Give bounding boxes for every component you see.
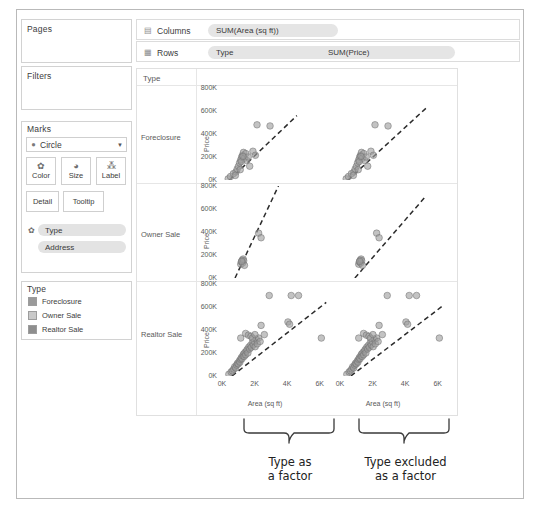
scatter-svg <box>340 284 454 376</box>
scatter-point[interactable] <box>350 172 357 179</box>
shelf-pill-area[interactable]: SUM(Area (sq ft)) <box>208 24 338 37</box>
scatter-panel-owner-sale-by-type[interactable] <box>222 186 336 278</box>
chevron-down-icon[interactable]: ▼ <box>114 142 126 148</box>
scatter-point[interactable] <box>318 335 325 342</box>
x-tick-label: 0K <box>213 380 231 387</box>
size-icon: ◕ <box>73 162 78 171</box>
shelf-pill-price[interactable]: SUM(Price) <box>320 46 455 59</box>
pages-card-title: Pages <box>27 24 52 34</box>
shelf-pill-type-label: Type <box>216 48 233 57</box>
scatter-point[interactable] <box>254 122 261 129</box>
legend-item-label: Owner Sale <box>42 311 81 320</box>
scatter-point[interactable] <box>356 258 363 265</box>
scatter-point[interactable] <box>370 152 377 159</box>
shelf-pill-type[interactable]: Type <box>208 46 333 59</box>
filters-card-title: Filters <box>27 71 52 81</box>
legend-swatch <box>28 297 37 306</box>
scatter-point[interactable] <box>376 322 383 329</box>
label-shelf-button[interactable]: ⁂ Label <box>96 157 126 185</box>
scatter-point[interactable] <box>288 292 295 299</box>
scatter-point[interactable] <box>358 153 365 160</box>
scatter-svg <box>340 88 454 180</box>
x-tick-label: 2K <box>364 380 382 387</box>
y-tick-label: 400K <box>191 228 217 235</box>
scatter-point[interactable] <box>364 163 371 170</box>
y-tick-label: 600K <box>191 107 217 114</box>
scatter-point[interactable] <box>404 321 411 328</box>
columns-icon: ▤ <box>144 26 151 35</box>
scatter-point[interactable] <box>261 331 268 338</box>
rows-shelf-label: Rows <box>157 48 178 58</box>
scatter-point[interactable] <box>436 335 443 342</box>
scatter-panel-realtor-sale-by-type[interactable] <box>222 284 336 376</box>
scatter-point[interactable] <box>355 166 362 173</box>
tooltip-shelf-button[interactable]: Tooltip <box>63 191 104 212</box>
trend-line <box>232 302 326 376</box>
size-shelf-button[interactable]: ◕ Size <box>61 157 91 185</box>
detail-shelf-button[interactable]: Detail <box>26 191 59 212</box>
label-shelf-label: Label <box>102 172 120 180</box>
scatter-point[interactable] <box>258 234 265 241</box>
detail-shelf-label: Detail <box>33 198 52 206</box>
scatter-point[interactable] <box>372 122 379 129</box>
scatter-point[interactable] <box>375 338 382 345</box>
size-shelf-label: Size <box>69 172 84 180</box>
y-tick-label: 200K <box>191 251 217 258</box>
marks-pill-type[interactable]: Type <box>38 224 126 236</box>
rows-shelf[interactable]: ▦ Rows Type SUM(Price) <box>136 41 520 62</box>
legend-item-foreclosure[interactable]: Foreclosure <box>28 297 82 306</box>
scatter-svg <box>222 88 336 180</box>
x-axis-title: Area (sq ft) <box>338 400 428 407</box>
x-tick-label: 2K <box>246 380 264 387</box>
scatter-point[interactable] <box>376 234 383 241</box>
scatter-panel-foreclosure-excluded[interactable] <box>340 88 454 180</box>
columns-shelf[interactable]: ▤ Columns SUM(Area (sq ft)) <box>136 19 520 40</box>
y-tick-label: 800K <box>191 84 217 91</box>
legend-swatch <box>28 325 37 334</box>
row-header-foreclosure: Foreclosure <box>141 133 191 142</box>
scatter-point[interactable] <box>286 321 293 328</box>
scatter-point[interactable] <box>295 292 302 299</box>
scatter-point[interactable] <box>384 292 391 299</box>
scatter-point[interactable] <box>257 338 264 345</box>
annotation-right-line1: Type excluded <box>348 455 463 469</box>
scatter-point[interactable] <box>266 292 273 299</box>
scatter-panel-foreclosure-by-type[interactable] <box>222 88 336 180</box>
columns-shelf-label: Columns <box>157 26 191 36</box>
legend-item-realtor-sale[interactable]: Realtor Sale <box>28 325 83 334</box>
annotation-right-line2: as a factor <box>348 469 463 483</box>
circle-mark-icon: ● <box>27 140 40 149</box>
scatter-point[interactable] <box>385 123 392 130</box>
y-tick-label: 0K <box>191 372 217 379</box>
scatter-point[interactable] <box>238 258 245 265</box>
brace-left <box>240 417 340 445</box>
x-tick-label: 4K <box>396 380 414 387</box>
color-shelf-label: Color <box>32 172 50 180</box>
scatter-point[interactable] <box>413 292 420 299</box>
marks-pill-address-label: Address <box>45 243 74 252</box>
scatter-panel-owner-sale-excluded[interactable] <box>340 186 454 278</box>
mark-type-dropdown[interactable]: ● Circle ▼ <box>26 137 127 152</box>
scatter-point[interactable] <box>258 322 265 329</box>
scatter-point[interactable] <box>232 172 239 179</box>
scatter-point[interactable] <box>252 331 259 338</box>
scatter-point[interactable] <box>379 331 386 338</box>
y-tick-label: 400K <box>191 326 217 333</box>
scatter-point[interactable] <box>252 152 259 159</box>
y-tick-label: 400K <box>191 130 217 137</box>
scatter-panel-realtor-sale-excluded[interactable] <box>340 284 454 376</box>
scatter-svg <box>340 186 454 278</box>
color-shelf-button[interactable]: ✿ Color <box>26 157 56 185</box>
scatter-point[interactable] <box>406 292 413 299</box>
scatter-point[interactable] <box>370 331 377 338</box>
marks-pill-address[interactable]: Address <box>38 241 126 253</box>
trend-line <box>351 305 444 376</box>
scatter-point[interactable] <box>267 123 274 130</box>
scatter-point[interactable] <box>246 163 253 170</box>
y-axis-title: Price <box>203 332 210 348</box>
row-header-owner-sale: Owner Sale <box>141 230 191 239</box>
scatter-point[interactable] <box>240 153 247 160</box>
shelf-pill-area-label: SUM(Area (sq ft)) <box>216 26 279 35</box>
legend-item-owner-sale[interactable]: Owner Sale <box>28 311 81 320</box>
scatter-point[interactable] <box>237 166 244 173</box>
